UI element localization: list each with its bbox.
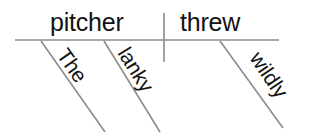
modifier-word-wildly: wildly — [245, 47, 293, 103]
verb-word-threw: threw — [180, 8, 241, 36]
subject-word-pitcher: pitcher — [50, 8, 124, 36]
modifier-word-the: The — [53, 44, 92, 86]
modifier-word-lanky: lanky — [114, 43, 159, 97]
sentence-diagram: pitcher threw The lanky wildly — [0, 0, 314, 136]
diagram-canvas: pitcher threw The lanky wildly — [0, 0, 314, 136]
